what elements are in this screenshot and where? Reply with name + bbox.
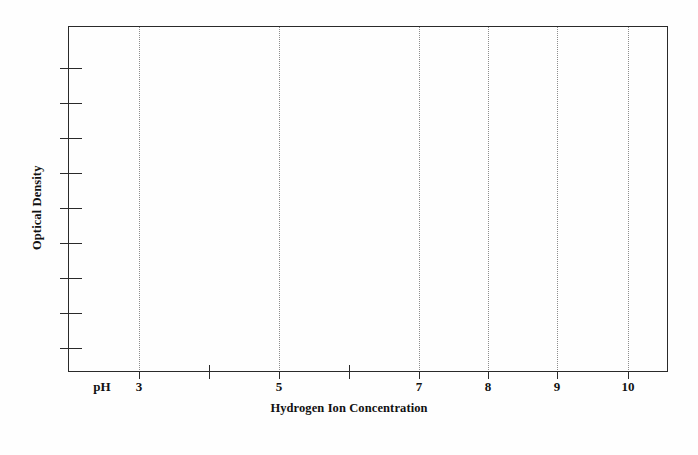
y-tick-8	[60, 348, 82, 349]
y-tick-2	[60, 138, 82, 139]
x-tick-ph-6	[349, 372, 350, 379]
x-tick-label-ph-8: 8	[485, 379, 492, 395]
x-tick-label-ph-9: 9	[554, 379, 561, 395]
y-tick-1	[60, 103, 82, 104]
x-tick-ph-3	[139, 372, 140, 379]
y-axis-title: Optical Density	[30, 100, 48, 250]
x-tick-inner-ph-6	[349, 365, 350, 372]
x-tick-label-ph-5: 5	[276, 379, 283, 395]
y-tick-4	[60, 208, 82, 209]
x-axis-title: Hydrogen Ion Concentration	[0, 401, 698, 416]
x-tick-ph-7	[419, 372, 420, 379]
x-tick-label-ph-7: 7	[416, 379, 423, 395]
x-axis-unit-prefix-label: pH	[93, 379, 110, 395]
y-tick-0	[60, 68, 82, 69]
x-tick-ph-4	[209, 372, 210, 379]
y-tick-7	[60, 313, 82, 314]
y-tick-5	[60, 243, 82, 244]
x-tick-label-ph-3: 3	[136, 379, 143, 395]
y-tick-6	[60, 278, 82, 279]
plot-area	[68, 26, 668, 372]
y-tick-3	[60, 173, 82, 174]
x-tick-ph-5	[279, 372, 280, 379]
x-tick-inner-ph-4	[209, 365, 210, 372]
x-tick-ph-9	[557, 372, 558, 379]
x-tick-ph-8	[488, 372, 489, 379]
chart-page: 3578910 pH Optical Density Hydrogen Ion …	[0, 0, 698, 455]
x-tick-label-ph-10: 10	[622, 379, 635, 395]
x-tick-ph-10	[628, 372, 629, 379]
